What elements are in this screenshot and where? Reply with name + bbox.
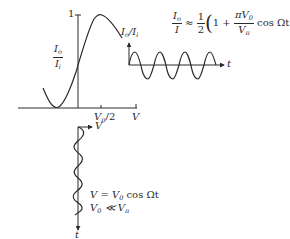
y-tick-one-label: 1 <box>68 9 74 19</box>
output-y-label: Io/Ii <box>121 27 138 39</box>
input-t-label: t <box>75 230 79 239</box>
output-t-label: t <box>227 59 231 69</box>
transfer-x-label: V <box>132 112 139 122</box>
input-equation-line2: V0 ≪ Vπ <box>90 203 129 215</box>
input-equation-line1: V = V0 cos Ωt <box>90 190 159 202</box>
input-v-label: V <box>95 121 102 131</box>
transfer-y-label: Io Ii <box>53 44 63 70</box>
output-equation: IoI ≈ 12(1 + πV0Vπ cos Ωt) <box>172 10 290 36</box>
